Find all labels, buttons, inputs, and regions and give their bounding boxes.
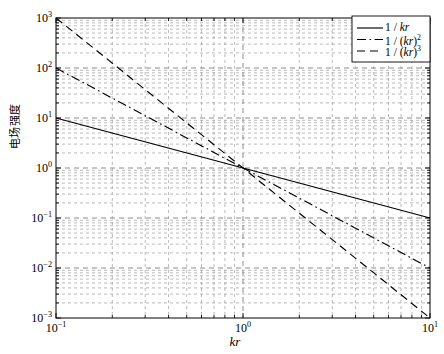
- plot-area: [0, 0, 444, 354]
- chart-figure: 电场强度 kr 10−1 100 101 103 102 101 100 10−…: [0, 0, 444, 354]
- legend-label-2: 1 / (kr)3: [385, 44, 421, 58]
- legend-label-0: 1 / kr: [385, 21, 409, 33]
